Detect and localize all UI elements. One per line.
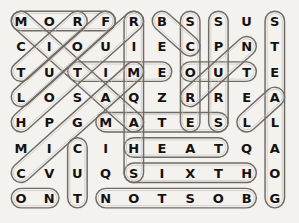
grid-cell-letter[interactable]: U <box>44 65 55 80</box>
grid-cell-letter[interactable]: S <box>214 14 223 29</box>
grid-cell-letter[interactable]: G <box>269 191 280 206</box>
grid-cell-letter[interactable]: V <box>44 166 54 181</box>
grid-cell-letter[interactable]: M <box>99 115 112 130</box>
grid-cell-letter[interactable]: T <box>242 65 251 80</box>
grid-cell-letter[interactable]: N <box>100 191 111 206</box>
grid-cell-letter[interactable]: S <box>186 191 195 206</box>
grid-cell-letter[interactable]: U <box>100 39 111 54</box>
grid-cell-letter[interactable]: R <box>213 90 223 105</box>
grid-cell-letter[interactable]: O <box>44 90 55 105</box>
grid-cell-letter[interactable]: C <box>73 141 83 156</box>
grid-cell-letter[interactable]: P <box>44 115 54 130</box>
grid-cell-letter[interactable]: S <box>129 166 138 181</box>
grid-cell-letter[interactable]: C <box>185 39 195 54</box>
grid-cell-letter[interactable]: O <box>128 191 139 206</box>
grid-cell-letter[interactable]: O <box>15 191 26 206</box>
found-word-oval[interactable] <box>124 138 228 158</box>
grid-cell-letter[interactable]: Z <box>157 90 166 105</box>
grid-cell-letter[interactable]: F <box>101 14 110 29</box>
grid-cell-letter[interactable]: U <box>213 65 224 80</box>
grid-cell-letter[interactable]: U <box>72 166 83 181</box>
grid-cell-letter[interactable]: L <box>242 115 250 130</box>
grid-cell-letter[interactable]: E <box>158 141 167 156</box>
grid-cell-letter[interactable]: E <box>158 39 167 54</box>
grid-cell-letter[interactable]: T <box>158 115 167 130</box>
grid-cell-letter[interactable]: S <box>214 115 223 130</box>
grid-cell-letter[interactable]: P <box>214 39 224 54</box>
grid-cell-letter[interactable]: A <box>101 90 111 105</box>
grid-cell-letter[interactable]: E <box>270 65 279 80</box>
grid-cell-letter[interactable]: I <box>47 141 52 156</box>
grid-cell-letter[interactable]: E <box>242 90 251 105</box>
grid-cell-letter[interactable]: N <box>44 191 55 206</box>
grid-cell-letter[interactable]: H <box>16 115 27 130</box>
grid-cell-letter[interactable]: T <box>73 65 82 80</box>
grid-cell-letter[interactable]: T <box>158 191 167 206</box>
grid-cell-letter[interactable]: A <box>129 115 139 130</box>
grid-cell-letter[interactable]: Q <box>128 90 139 105</box>
grid-cell-letter[interactable]: M <box>15 14 28 29</box>
grid-cell-letter[interactable]: A <box>270 141 280 156</box>
grid-cell-letter[interactable]: C <box>16 166 26 181</box>
grid-cell-letter[interactable]: M <box>15 141 28 156</box>
grid-cell-letter[interactable]: E <box>186 115 195 130</box>
grid-cell-letter[interactable]: N <box>241 39 252 54</box>
grid-cell-letter[interactable]: S <box>73 90 82 105</box>
grid-cell-letter[interactable]: I <box>103 65 108 80</box>
grid-cell-letter[interactable]: O <box>72 39 83 54</box>
grid-cell-letter[interactable]: R <box>185 90 195 105</box>
grid-cell-letter[interactable]: T <box>73 191 82 206</box>
grid-cell-letter[interactable]: O <box>213 191 224 206</box>
grid-cell-letter[interactable]: O <box>185 65 196 80</box>
word-search-puzzle: MORFRBSSUSCIOUIECPNTTUTIMEOUTELOSAQZRREA… <box>0 0 299 223</box>
grid-cell-letter[interactable]: I <box>47 39 52 54</box>
grid-cell-letter[interactable]: I <box>160 166 165 181</box>
grid-cell-letter[interactable]: A <box>185 141 195 156</box>
grid-cell-letter[interactable]: X <box>185 166 195 181</box>
grid-cell-letter[interactable]: R <box>129 14 139 29</box>
grid-cell-letter[interactable]: Q <box>100 166 111 181</box>
grid-cell-letter[interactable]: T <box>17 65 26 80</box>
grid-cell-letter[interactable]: T <box>214 141 223 156</box>
grid-cell-letter[interactable]: E <box>158 65 167 80</box>
grid-cell-letter[interactable]: G <box>72 115 83 130</box>
grid-cell-letter[interactable]: T <box>270 39 279 54</box>
grid-cell-letter[interactable]: L <box>17 90 25 105</box>
grid-cell-letter[interactable]: U <box>241 14 252 29</box>
grid-cell-letter[interactable]: S <box>186 14 195 29</box>
grid-cell-letter[interactable]: S <box>270 14 279 29</box>
grid-cell-letter[interactable]: R <box>72 14 82 29</box>
found-word-oval[interactable] <box>96 188 257 208</box>
grid-cell-letter[interactable]: I <box>103 141 108 156</box>
grid-cell-letter[interactable]: O <box>44 14 55 29</box>
grid-cell-letter[interactable]: L <box>271 115 279 130</box>
grid-cell-letter[interactable]: C <box>16 39 26 54</box>
grid-cell-letter[interactable]: B <box>242 191 252 206</box>
grid-cell-letter[interactable]: T <box>214 166 223 181</box>
grid-cell-letter[interactable]: Q <box>241 141 252 156</box>
grid-cell-letter[interactable]: A <box>270 90 280 105</box>
puzzle-grid-canvas[interactable]: MORFRBSSUSCIOUIECPNTTUTIMEOUTELOSAQZRREA… <box>0 0 299 223</box>
grid-cell-letter[interactable]: B <box>157 14 167 29</box>
grid-letters: MORFRBSSUSCIOUIECPNTTUTIMEOUTELOSAQZRREA… <box>15 14 281 206</box>
grid-cell-letter[interactable]: M <box>127 65 140 80</box>
grid-cell-letter[interactable]: H <box>241 166 252 181</box>
grid-cell-letter[interactable]: O <box>269 166 280 181</box>
grid-cell-letter[interactable]: H <box>128 141 139 156</box>
grid-cell-letter[interactable]: I <box>131 39 136 54</box>
